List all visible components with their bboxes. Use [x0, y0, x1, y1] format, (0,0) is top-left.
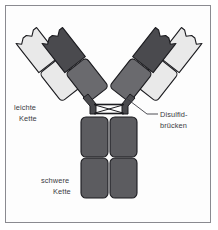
label-light-chain-line1: leichte [14, 103, 36, 112]
antibody-diagram: leichte Kette Disulfid- brücken schwere … [0, 0, 218, 230]
hinge-region [83, 94, 135, 114]
label-heavy-chain-line1: schwere [41, 176, 69, 185]
heavy-chain-stem [81, 117, 137, 198]
figure-page: leichte Kette Disulfid- brücken schwere … [0, 0, 218, 230]
stem-right-ch3-domain [110, 158, 137, 198]
right-arm [109, 27, 202, 102]
label-disulfide-line2: brücken [160, 121, 187, 130]
stem-right-ch2-domain [110, 117, 137, 157]
label-light-chain-line2: Kette [19, 114, 37, 123]
left-arm [16, 27, 109, 102]
label-heavy-chain-line2: Kette [53, 187, 71, 196]
stem-left-ch2-domain [81, 117, 108, 157]
stem-left-ch3-domain [81, 158, 108, 198]
label-disulfide-line1: Disulfid- [160, 110, 188, 119]
